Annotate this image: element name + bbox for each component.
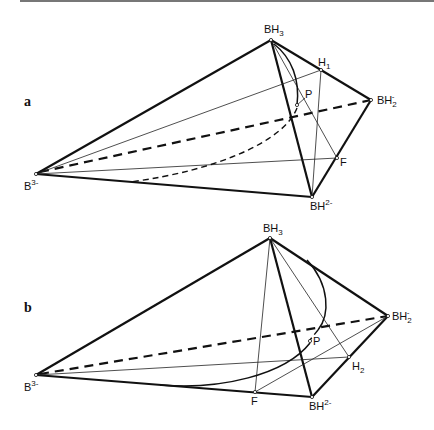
label-BH2: BH2- (377, 92, 397, 109)
label-BH3: BH3 (264, 23, 284, 38)
reaction-path-lower (160, 343, 310, 386)
tetrahedra-diagram: a B3- BH3 H1 BH2- F BH2- P (0, 0, 434, 430)
vertex-H2 (347, 355, 350, 358)
line-B3-H2 (36, 357, 349, 375)
vertex-BH (310, 195, 313, 198)
panel-b: b B3- BH3 BH2- H2 F BH2- P (24, 222, 412, 412)
label-F: F (251, 395, 258, 407)
edge-B3-BH3 (36, 40, 271, 174)
label-BH3: BH3 (263, 222, 283, 237)
label-P: P (313, 335, 320, 347)
vertex-H1 (319, 68, 322, 71)
edge-B3-BH2-hidden (40, 316, 388, 374)
label-BH2: BH2- (392, 308, 412, 325)
vertex-F (253, 390, 256, 393)
vertex-B3 (34, 373, 37, 376)
vertex-P (295, 103, 298, 106)
edge-B3-BH3 (36, 238, 270, 375)
vertex-BH3 (269, 38, 272, 41)
reaction-path-upper (307, 260, 326, 330)
edge-B3-BH (36, 174, 312, 197)
vertex-F (335, 156, 338, 159)
label-B3: B3- (24, 178, 39, 192)
vertex-BH (310, 395, 313, 398)
vertex-BH3 (268, 236, 271, 239)
line-H1-BH (312, 70, 321, 197)
edge-B3-BH2-hidden (40, 100, 371, 172)
line-B3-H1 (36, 70, 321, 174)
vertex-B3 (34, 172, 37, 175)
panel-a: a B3- BH3 H1 BH2- F BH2- P (24, 23, 397, 212)
label-BH: BH2- (310, 198, 333, 212)
panel-label-b: b (24, 300, 32, 315)
label-P: P (305, 88, 312, 100)
vertex-BH2 (369, 98, 372, 101)
line-BH3-F (255, 238, 270, 392)
label-BH: BH2- (309, 398, 332, 412)
label-F: F (340, 156, 347, 168)
label-B3: B3- (24, 379, 39, 393)
vertex-BH2 (386, 314, 389, 317)
edge-BH2-BH (312, 100, 371, 197)
panel-label-a: a (24, 94, 31, 109)
vertex-P (308, 339, 311, 342)
reaction-path-dashed (130, 108, 297, 182)
label-H2: H2 (352, 360, 365, 375)
